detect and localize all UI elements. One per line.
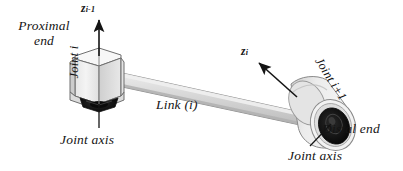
z-axis-distal-subscript: i — [246, 48, 248, 57]
proximal-end-line1: Proximal — [18, 18, 69, 33]
proximal-end-line2: end — [34, 33, 54, 48]
link-i-label: Link (i) — [156, 97, 198, 112]
distal-end-label: Distal end — [322, 121, 380, 136]
joint-i-label: Joint i — [67, 32, 81, 92]
z-axis-proximal-subscript: i-1 — [86, 5, 96, 14]
z-axis-distal-label: zi — [241, 45, 248, 58]
joint-axis-left-label: Joint axis — [60, 132, 114, 147]
z-axis-proximal-label: zi-1 — [81, 2, 95, 15]
joint-axis-right-label: Joint axis — [288, 148, 342, 163]
link-body — [113, 71, 300, 125]
distal-z-axis — [259, 63, 297, 97]
figure-canvas: Proximal end zi-1 zi Joint i Joint i+1 L… — [0, 0, 403, 171]
